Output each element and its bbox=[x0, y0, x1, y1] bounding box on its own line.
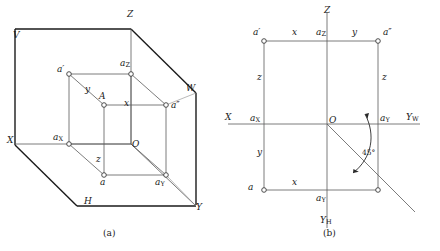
label-plane-v: V bbox=[13, 31, 20, 40]
label-point-az: aZ bbox=[316, 28, 326, 38]
figure-a-drawing bbox=[0, 0, 220, 251]
label-point-A: A bbox=[99, 92, 106, 101]
dim-label-z-right: z bbox=[382, 73, 387, 82]
label-axis-x: X bbox=[7, 136, 13, 145]
label-point-az: aZ bbox=[120, 59, 130, 69]
point-az bbox=[129, 72, 134, 77]
point-ay bbox=[164, 173, 169, 178]
point-corner bbox=[376, 188, 381, 193]
figure-b-drawing bbox=[220, 0, 440, 251]
label-plane-h: H bbox=[84, 197, 92, 206]
label-point-a-top: a bbox=[100, 178, 105, 187]
caption-figure-a: (a) bbox=[103, 228, 115, 238]
label-origin-o: O bbox=[132, 140, 139, 149]
arrowhead-bottom bbox=[353, 169, 359, 173]
label-point-ax: aX bbox=[250, 114, 260, 124]
dim-label-x-bottom: x bbox=[292, 178, 297, 187]
point-A bbox=[102, 103, 107, 108]
label-axis-yh: YH bbox=[320, 216, 332, 226]
edge-az-aside bbox=[131, 74, 166, 105]
label-point-a-side: a″ bbox=[383, 28, 392, 37]
construction-ay-to-y bbox=[166, 175, 196, 206]
dim-label-z: z bbox=[96, 155, 101, 164]
label-axis-z: Z bbox=[324, 6, 330, 15]
label-plane-w: W bbox=[186, 84, 195, 93]
point-a-front bbox=[67, 72, 72, 77]
rotation-arc bbox=[353, 114, 371, 173]
label-point-ay: aY bbox=[155, 178, 165, 188]
figure-a-pictorial: V Z W X H Y a′ aZ A a″ aX a aY O y x z (… bbox=[0, 0, 220, 251]
label-point-a-side: a″ bbox=[171, 101, 180, 110]
dim-label-y-top: y bbox=[352, 28, 357, 37]
point-ax bbox=[67, 142, 72, 147]
point-a-side bbox=[164, 103, 169, 108]
label-axis-z: Z bbox=[127, 10, 133, 19]
caption-figure-b: (b) bbox=[323, 228, 336, 238]
label-point-ax: aX bbox=[53, 133, 63, 143]
dim-label-y-left: y bbox=[257, 148, 262, 157]
label-axis-x: X bbox=[225, 113, 231, 122]
label-point-a-front: a′ bbox=[253, 28, 260, 37]
figure-b-orthographic: Z X YW YH a′ a″ aZ aX aY a aY O x y z z … bbox=[220, 0, 440, 251]
dim-label-z-left: z bbox=[257, 73, 262, 82]
label-point-a-top: a bbox=[248, 183, 253, 192]
label-point-ay-bottom: aY bbox=[316, 194, 326, 204]
point-a-front bbox=[262, 39, 267, 44]
plane-h-left-bevel bbox=[15, 145, 77, 206]
label-point-ay-right: aY bbox=[380, 114, 390, 124]
label-axis-y: Y bbox=[196, 203, 202, 212]
label-axis-yw: YW bbox=[406, 113, 419, 123]
dim-label-x-top: x bbox=[292, 28, 297, 37]
label-angle-45: 45° bbox=[362, 148, 375, 157]
dim-label-y: y bbox=[85, 85, 90, 94]
label-point-a-front: a′ bbox=[57, 65, 64, 74]
point-a-top bbox=[262, 188, 267, 193]
dim-label-x: x bbox=[124, 99, 129, 108]
point-a-side bbox=[376, 39, 381, 44]
label-origin-o: O bbox=[329, 116, 336, 125]
